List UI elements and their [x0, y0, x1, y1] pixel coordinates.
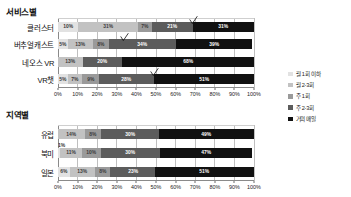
axis-tickmark [214, 181, 215, 183]
axis-tick-label: 60% [170, 184, 181, 190]
axis-tickmark [254, 88, 255, 90]
axis-tick-label: 90% [229, 184, 240, 190]
bar-segment: 13% [58, 57, 83, 67]
bar-segment-value: 39% [209, 42, 219, 47]
legend-swatch-icon [288, 83, 293, 88]
bar-segment-value: 5% [59, 77, 66, 82]
bar-segment: 31% [193, 22, 254, 32]
bar-segment: 30% [101, 148, 160, 158]
axis-tick-label: 30% [111, 184, 122, 190]
bar-segment: 34% [109, 39, 176, 49]
axis-tick-label: 80% [209, 184, 220, 190]
bar-segment-value: 14% [67, 132, 77, 137]
legend-label: 주 1회 [296, 92, 310, 100]
axis-tickmark [234, 88, 235, 90]
legend-swatch-icon [288, 117, 293, 122]
bar-rows-services: 클러스터10%31%7%21%31%버추얼캐스트5%13%8%34%39%네오스… [58, 18, 254, 88]
axis-tickmark [156, 181, 157, 183]
bar-segment-value: 49% [202, 132, 212, 137]
bar-segment-value: 31% [219, 24, 229, 29]
legend-item[interactable]: 월 2-3회 [288, 81, 351, 89]
bar-segment: 8% [95, 167, 111, 177]
axis-tick-label: 70% [190, 91, 201, 97]
legend-item[interactable]: 주 1회 [288, 92, 351, 100]
chart-regions: 유럽14%8%30%49%북미1%11%10%30%47%1%일본6%13%8%… [58, 125, 254, 181]
chart-services: 클러스터10%31%7%21%31%버추얼캐스트5%13%8%34%39%네오스… [58, 18, 254, 88]
bar-segment-value: 5% [59, 42, 66, 47]
axis-tick-label: 90% [229, 91, 240, 97]
bar-segment-value: 7% [142, 24, 149, 29]
axis-tick-label: 70% [190, 184, 201, 190]
section-title-services: 서비스별 [6, 5, 37, 17]
bar-segment-value: 30% [125, 132, 135, 137]
bar-segment-value: 47% [201, 151, 211, 156]
axis-tickmark [195, 88, 196, 90]
legend-label: 거의 매일 [296, 115, 317, 123]
legend-item[interactable]: 월 1회 이하 [288, 70, 351, 78]
bar-row: 일본6%13%8%23%51% [58, 167, 254, 177]
axis-tickmark [234, 181, 235, 183]
axis-tickmark [116, 181, 117, 183]
bar-segment: 8% [85, 129, 101, 139]
bar-segment-value: 34% [137, 42, 147, 47]
axis-tick-label: 20% [92, 91, 103, 97]
bar-segment-value: 28% [122, 77, 132, 82]
bar-segment: 14% [58, 129, 85, 139]
bar-segment: 30% [101, 129, 159, 139]
legend-swatch-icon [288, 105, 293, 110]
bar-segment-value: 51% [200, 169, 210, 174]
bar-segment: 7% [68, 74, 82, 84]
bar-segment-value: 10% [63, 24, 73, 29]
bar-segment-value: 8% [98, 42, 105, 47]
bar-segment-value: 13% [66, 59, 76, 64]
bar-outside-value: 1% [58, 142, 65, 148]
axis-tickmark [175, 88, 176, 90]
axis-tick-label: 60% [170, 91, 181, 97]
bar-segment-value: 31% [103, 24, 113, 29]
section-title-regions: 지역별 [6, 108, 29, 120]
bar-rows-regions: 유럽14%8%30%49%북미1%11%10%30%47%1%일본6%13%8%… [58, 125, 254, 181]
axis-tick-label: 0% [54, 91, 62, 97]
bar-row: 네오스 VR13%20%68% [58, 57, 254, 67]
axis-tick-label: 10% [72, 184, 83, 190]
bar-segment: 23% [110, 167, 155, 177]
bar-segment: 49% [159, 129, 254, 139]
axis-tickmark [136, 88, 137, 90]
legend-item[interactable]: 거의 매일 [288, 115, 351, 123]
axis-tickmark [77, 181, 78, 183]
bar-segment-value: 7% [71, 77, 78, 82]
bar-segment: 9% [82, 74, 100, 84]
bar-segment: 6% [58, 167, 70, 177]
bar-segment-value: 8% [89, 132, 96, 137]
bar-segment: 5% [58, 74, 68, 84]
axis-tick-label: 40% [131, 184, 142, 190]
bar-segment: 47% [160, 148, 252, 158]
bar-row-label: 북미 [41, 147, 54, 158]
legend-label: 월 2-3회 [296, 81, 314, 89]
bar-row-label: 일본 [41, 166, 54, 177]
bar-row: 유럽14%8%30%49% [58, 129, 254, 139]
bar-segment: 10% [82, 148, 102, 158]
axis-tick-label: 10% [72, 91, 83, 97]
bar-row-label: 버추얼캐스트 [14, 39, 54, 50]
axis-tick-label: 100% [247, 91, 261, 97]
bar-row-label: 네오스 VR [22, 56, 54, 67]
bar-row: 북미1%11%10%30%47%1% [58, 148, 254, 158]
bar-segment: 11% [60, 148, 82, 158]
legend-item[interactable]: 주 2-3회 [288, 104, 351, 112]
axis-tick-label: 100% [247, 184, 261, 190]
axis-tick-label: 40% [131, 91, 142, 97]
bar-row-label: 유럽 [41, 129, 54, 140]
bar-segment: 7% [138, 22, 152, 32]
axis-tick-label: 50% [151, 91, 162, 97]
axis-tick-label: 20% [92, 184, 103, 190]
bar-segment-value: 9% [87, 77, 94, 82]
bar-segment-value: 10% [86, 151, 96, 156]
x-axis-services: 0%10%20%30%40%50%60%70%80%90%100% [58, 88, 254, 100]
bar-segment: 8% [93, 39, 109, 49]
bar-segment-value: 13% [77, 169, 87, 174]
axis-tickmark [77, 88, 78, 90]
axis-tickmark [195, 181, 196, 183]
bar-segment: 20% [83, 57, 122, 67]
bar-segment-value: 51% [199, 77, 209, 82]
